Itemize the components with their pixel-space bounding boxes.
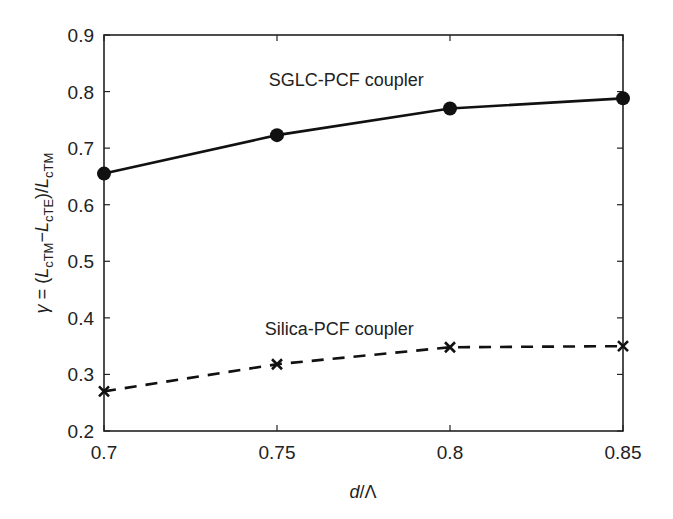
circle-marker-icon [97,167,111,181]
y-tick-label: 0.3 [68,364,94,385]
circle-marker-icon [616,91,630,105]
y-tick-label: 0.8 [68,82,94,103]
series-sglc-pcf [97,91,630,180]
x-tick-label: 0.8 [437,442,463,463]
plot-frame [104,35,623,431]
y-tick-label: 0.4 [68,308,95,329]
annotation-silica: Silica-PCF coupler [265,319,414,339]
x-axis-ticks: 0.70.750.80.85 [91,35,642,463]
y-tick-label: 0.7 [68,138,94,159]
y-tick-label: 0.5 [68,251,94,272]
y-tick-label: 0.2 [68,421,94,442]
y-tick-label: 0.9 [68,25,94,46]
x-axis-title: d/Λ [349,482,376,502]
x-tick-label: 0.7 [91,442,117,463]
series-layer [97,91,630,396]
series-line [104,98,623,173]
x-tick-label: 0.85 [605,442,642,463]
circle-marker-icon [443,102,457,116]
circle-marker-icon [270,128,284,142]
annotations: SGLC-PCF couplerSilica-PCF coupler [265,70,424,339]
annotation-sglc: SGLC-PCF coupler [269,70,424,90]
series-silica-pcf [99,341,628,396]
y-axis-title: γ = (LcTM−LcTE)/LcTM [32,153,56,314]
x-tick-label: 0.75 [259,442,296,463]
series-line [104,346,623,391]
y-tick-label: 0.6 [68,195,94,216]
line-chart: 0.20.30.40.50.60.70.80.9 0.70.750.80.85 … [0,0,673,519]
